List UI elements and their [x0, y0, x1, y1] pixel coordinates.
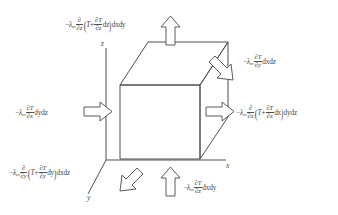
gradient-fraction: ∂T∂z [194, 180, 202, 194]
paren-open: ( [83, 20, 86, 33]
y-axis-line [88, 160, 106, 194]
flux-label-bottom-center: −λm∂T∂zdxdy [183, 180, 216, 194]
bracket-close: ) [54, 168, 56, 181]
arrow-top-out [161, 16, 180, 45]
area-differential: dxdz [262, 58, 276, 66]
area-differential: dydz [34, 109, 48, 117]
flux-label-right-middle: −λm∂∂x(T+∂T∂xdx)dydz [236, 105, 297, 121]
arrow-bottom-center-in [161, 167, 180, 196]
gradient-fraction: ∂T∂x [26, 105, 34, 119]
operator-fraction: ∂∂y [20, 165, 27, 179]
z-axis-label: z [101, 39, 104, 48]
cube-front-face [120, 85, 200, 159]
gradient-fraction: ∂T∂y [254, 54, 262, 68]
arrow-right-top-in [209, 56, 233, 80]
flux-label-top: −λm∂∂z(T+∂T∂zdz)dxdy [65, 17, 126, 33]
flux-label-left-middle: −λm∂T∂xdydz [15, 105, 48, 119]
y-axis-label: y [87, 193, 90, 202]
paren-open: ( [255, 108, 258, 121]
area-differential: dxdz [56, 169, 70, 177]
area-differential: dxdy [112, 21, 126, 29]
arrow-bottom-left-out [120, 168, 143, 191]
bracket-close: ) [281, 108, 283, 121]
operator-fraction: ∂∂z [76, 17, 83, 31]
area-differential: dydz [283, 109, 297, 117]
flux-label-bottom-left: −λm∂∂y(T+∂T∂ydy)dxdz [9, 165, 70, 181]
gradient-fraction: ∂T∂y [39, 165, 47, 179]
operator-fraction: ∂∂x [247, 105, 254, 119]
arrow-right-middle-out [206, 102, 234, 121]
gradient-fraction: ∂T∂z [94, 17, 102, 31]
plus-sign: + [34, 169, 38, 177]
arrow-left-middle-in [84, 102, 112, 121]
coordinate-axes [88, 48, 226, 194]
area-differential: dxdy [202, 184, 216, 192]
x-axis-label: x [226, 161, 229, 170]
paren-open: ( [28, 168, 31, 181]
plus-sign: + [261, 109, 265, 117]
plus-sign: + [90, 21, 94, 29]
flux-label-right-top: −λm∂T∂ydxdz [243, 54, 276, 68]
gradient-fraction: ∂T∂x [266, 105, 274, 119]
